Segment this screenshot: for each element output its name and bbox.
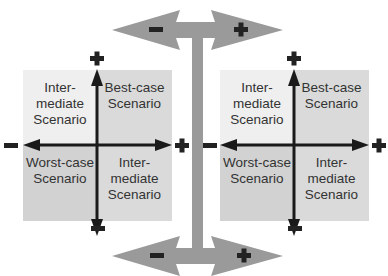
minus-icon	[203, 143, 217, 148]
left-bottom-right-label: Inter- mediate Scenario	[97, 155, 172, 203]
right-top-left-label: Inter- mediate Scenario	[220, 80, 294, 128]
connector-graphic	[0, 0, 388, 276]
minus-icon	[288, 226, 302, 231]
right-bottom-left-label: Worst-case Scenario	[220, 155, 294, 187]
right-top-right-label: Best-case Scenario	[294, 80, 369, 112]
center-pole	[192, 28, 203, 250]
right-bottom-right-label: Inter- mediate Scenario	[294, 155, 369, 203]
plus-icon	[287, 52, 301, 66]
plus-icon	[175, 139, 189, 153]
left-top-left-label: Inter- mediate Scenario	[23, 80, 97, 128]
minus-icon	[149, 27, 163, 32]
minus-icon	[150, 253, 164, 258]
left-top-right-label: Best-case Scenario	[97, 80, 172, 112]
minus-icon	[4, 143, 18, 148]
minus-icon	[91, 226, 105, 231]
left-bottom-left-label: Worst-case Scenario	[23, 155, 97, 187]
plus-icon	[372, 139, 386, 153]
plus-icon	[90, 52, 104, 66]
